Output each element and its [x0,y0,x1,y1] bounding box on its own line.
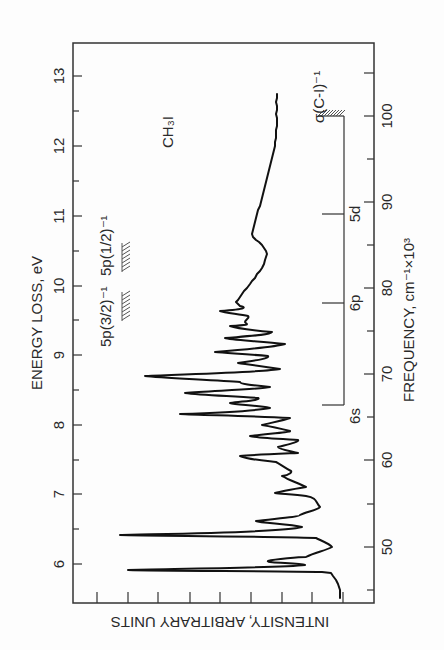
rydberg-6s-label: 6s [346,408,363,424]
frequency-axis-ticks [364,73,374,590]
ip-5p12-marker [122,242,130,272]
freq-tick-60: 60 [378,452,395,469]
freq-tick-100: 100 [378,103,395,128]
chart-figure: 13 12 11 10 9 8 7 6 ENERGY LOSS, eV 100 … [0,0,444,650]
energy-tick-8: 8 [50,421,67,429]
energy-tick-11: 11 [50,208,67,224]
energy-tick-13: 13 [50,68,67,85]
frequency-axis-title: FREQUENCY, cm⁻¹×10³ [400,238,417,402]
energy-tick-7: 7 [50,490,67,498]
energy-tick-6: 6 [50,560,67,568]
rydberg-5d-label: 5d [346,206,363,223]
energy-tick-12: 12 [50,138,67,155]
intensity-axis-ticks [97,592,343,603]
freq-tick-90: 90 [378,194,395,211]
intensity-axis-title: INTENSITY, ARBITRARY UNITS [111,614,329,631]
energy-tick-9: 9 [50,351,67,359]
frequency-tick-labels: 100 90 80 70 60 50 [378,103,395,555]
rydberg-6p-label: 6p [346,295,363,312]
spectrum-line [120,94,340,598]
molecule-label: CH₃I [159,116,176,148]
energy-tick-labels: 13 12 11 10 9 8 7 6 [50,68,67,569]
freq-tick-80: 80 [378,280,395,297]
sigma-ip-label: σ(C-I)⁻¹ [310,71,327,123]
ip-5p32-marker [122,291,130,321]
freq-tick-50: 50 [378,539,395,556]
freq-tick-70: 70 [378,366,395,383]
ip-5p12-label: 5p(1/2)⁻¹ [97,215,114,276]
plot-frame [73,43,374,603]
rydberg-series-bracket [318,116,344,405]
energy-tick-10: 10 [50,278,67,295]
ip-5p32-label: 5p(3/2)⁻¹ [97,286,114,347]
energy-axis-ticks [73,76,82,564]
energy-axis-title: ENERGY LOSS, eV [28,256,45,390]
